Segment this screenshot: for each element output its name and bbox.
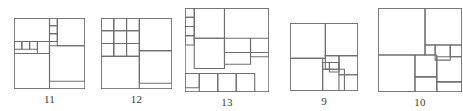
component-square: [127, 31, 140, 44]
squared-square-order-12: 12: [101, 18, 172, 109]
figure-label-12: 12: [101, 93, 172, 105]
component-square: [415, 55, 437, 77]
component-square: [139, 18, 172, 51]
component-square: [325, 23, 358, 56]
component-square: [127, 18, 140, 31]
component-square: [224, 8, 269, 53]
component-square: [329, 62, 339, 72]
squared-square-order-10-diagram: [378, 8, 462, 92]
component-square: [14, 54, 50, 90]
component-square: [185, 36, 194, 45]
component-square: [378, 55, 415, 92]
figure-label-11: 11: [14, 93, 85, 105]
component-square: [114, 44, 127, 57]
component-square: [139, 51, 172, 84]
component-square: [425, 45, 435, 55]
component-square: [185, 17, 194, 26]
figure-label-9: 9: [290, 95, 358, 107]
component-square: [378, 8, 425, 55]
component-square: [57, 18, 85, 46]
component-square: [114, 18, 127, 31]
squared-squares-figure-row: 111213910: [0, 0, 463, 111]
component-square: [22, 41, 30, 49]
component-square: [14, 41, 22, 49]
component-square: [185, 74, 199, 88]
component-square: [290, 58, 323, 91]
squared-square-order-11: 11: [14, 18, 85, 109]
component-square: [185, 8, 194, 17]
component-square: [185, 26, 194, 35]
component-square: [101, 44, 114, 57]
component-square: [339, 75, 358, 91]
component-square: [101, 31, 114, 44]
squared-square-order-9-diagram: [290, 23, 358, 91]
component-square: [50, 26, 58, 34]
component-square: [450, 45, 462, 57]
outer-square-border: [378, 8, 462, 92]
component-square: [251, 38, 269, 56]
squared-square-order-12-diagram: [101, 18, 172, 89]
figure-label-13: 13: [185, 96, 269, 108]
component-square: [114, 31, 127, 44]
figure-label-10: 10: [378, 96, 462, 108]
component-square: [339, 56, 358, 75]
component-square: [50, 46, 86, 82]
component-square: [425, 8, 462, 45]
component-square: [14, 18, 50, 54]
component-square: [218, 74, 236, 92]
component-square: [37, 41, 49, 53]
component-square: [323, 62, 330, 69]
component-square: [50, 34, 58, 42]
component-square: [50, 18, 58, 26]
component-square: [437, 82, 462, 92]
component-square: [224, 38, 250, 64]
squared-square-order-10: 10: [378, 8, 462, 111]
component-square: [194, 8, 224, 38]
component-square: [236, 74, 254, 92]
component-square: [435, 45, 450, 60]
outer-square-border: [185, 8, 269, 92]
component-square: [290, 23, 325, 58]
outer-square-border: [101, 18, 172, 89]
component-square: [194, 38, 224, 68]
component-square: [127, 44, 140, 57]
outer-square-border: [290, 23, 358, 91]
squared-square-order-9: 9: [290, 23, 358, 111]
squared-square-order-13: 13: [185, 8, 269, 111]
squared-square-order-11-diagram: [14, 18, 85, 89]
component-square: [199, 74, 217, 92]
component-square: [101, 18, 114, 31]
squared-square-order-13-diagram: [185, 8, 269, 92]
component-square: [101, 56, 139, 89]
component-square: [415, 77, 437, 92]
component-square: [30, 41, 38, 49]
